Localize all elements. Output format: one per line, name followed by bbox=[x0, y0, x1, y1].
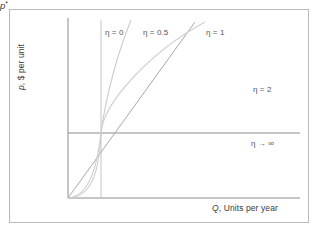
x-axis-label-symbol: Q bbox=[212, 203, 219, 213]
y-axis-label-symbol: p bbox=[16, 85, 26, 90]
curve-label-eta-0: η = 0 bbox=[105, 28, 124, 37]
curve-label-eta-0point5: η = 0.5 bbox=[143, 28, 168, 37]
curve-label-eta-2: η = 2 bbox=[253, 85, 272, 94]
curve-label-eta-infinity: η → ∞ bbox=[251, 139, 274, 148]
price-star-asterisk: * bbox=[5, 0, 8, 7]
y-axis-label-text: , $ per unit bbox=[16, 44, 26, 85]
curve-eta-2 bbox=[68, 22, 205, 198]
x-axis-label: Q, Units per year bbox=[212, 203, 278, 213]
curve-label-eta-1: η = 1 bbox=[206, 28, 225, 37]
y-axis-label: p, $ per unit bbox=[16, 24, 26, 110]
curve-eta-1 bbox=[68, 22, 195, 198]
x-axis-label-text: , Units per year bbox=[219, 203, 278, 213]
figure-container: p, $ per unit Q, Units per year p* η = 0… bbox=[0, 0, 321, 235]
curve-eta-0point5 bbox=[68, 20, 131, 198]
